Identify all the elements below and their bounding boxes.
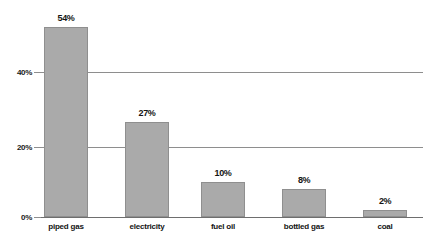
category-label-electricity: electricity <box>115 222 179 231</box>
tick-mark-20 <box>34 147 41 148</box>
bar-electricity <box>125 122 169 217</box>
bar-bottled-gas <box>282 189 326 217</box>
bar-fuel-oil <box>201 182 245 217</box>
x-axis-baseline <box>41 217 423 218</box>
category-label-fuel-oil: fuel oil <box>191 222 255 231</box>
y-tick-label-0: 0% <box>21 213 32 222</box>
tick-mark-0 <box>34 217 41 218</box>
category-label-bottled-gas: bottled gas <box>272 222 336 231</box>
tick-mark-40 <box>34 72 41 73</box>
bar-value-piped-gas: 54% <box>44 13 88 23</box>
bar-value-electricity: 27% <box>125 108 169 118</box>
bar-chart: 40% 20% 0% 54% 27% 10% 8% 2% piped gas e… <box>0 0 428 244</box>
bar-value-bottled-gas: 8% <box>282 175 326 185</box>
bar-value-fuel-oil: 10% <box>201 168 245 178</box>
y-tick-label-40: 40% <box>17 68 32 77</box>
category-label-piped-gas: piped gas <box>34 222 98 231</box>
y-tick-label-20: 20% <box>17 143 32 152</box>
bar-value-coal: 2% <box>363 196 407 206</box>
gridline-20 <box>41 147 423 148</box>
bar-coal <box>363 210 407 217</box>
gridline-40 <box>41 72 423 73</box>
bar-piped-gas <box>44 27 88 217</box>
category-label-coal: coal <box>353 222 417 231</box>
plot-area: 40% 20% 0% 54% 27% 10% 8% 2% piped gas e… <box>0 0 428 244</box>
